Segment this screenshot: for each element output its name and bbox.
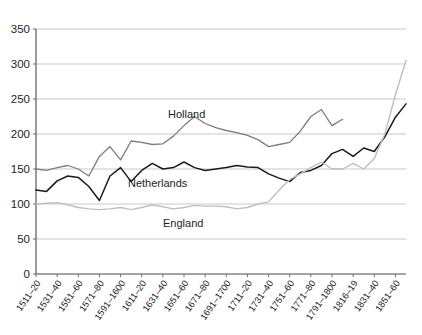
chart-figure: 050100150200250300350 1511–201531–401551… <box>0 0 422 335</box>
y-tick-label-200: 200 <box>11 128 30 140</box>
axis-group <box>36 29 406 274</box>
series-label-holland: Holland <box>168 108 205 120</box>
data-series-group <box>36 61 406 210</box>
series-label-england: England <box>163 217 203 229</box>
y-tick-label-250: 250 <box>11 93 30 105</box>
y-tick-label-50: 50 <box>17 233 30 245</box>
line-chart-canvas: 050100150200250300350 1511–201531–401551… <box>0 0 422 335</box>
y-tick-label-150: 150 <box>11 163 30 175</box>
y-tick-label-350: 350 <box>11 23 30 35</box>
y-tick-label-100: 100 <box>11 198 30 210</box>
y-tick-label-0: 0 <box>24 268 30 280</box>
x-axis-tick-labels: 1511–201531–401551–601571–801591–1600161… <box>14 278 402 321</box>
y-tick-label-300: 300 <box>11 58 30 70</box>
series-line-england <box>36 61 406 210</box>
y-axis-tick-labels: 050100150200250300350 <box>11 23 36 280</box>
series-line-netherlands <box>36 104 406 201</box>
cropped-caption-bleed <box>0 0 422 9</box>
gridline-group <box>36 29 406 239</box>
series-label-netherlands: Netherlands <box>128 177 188 189</box>
